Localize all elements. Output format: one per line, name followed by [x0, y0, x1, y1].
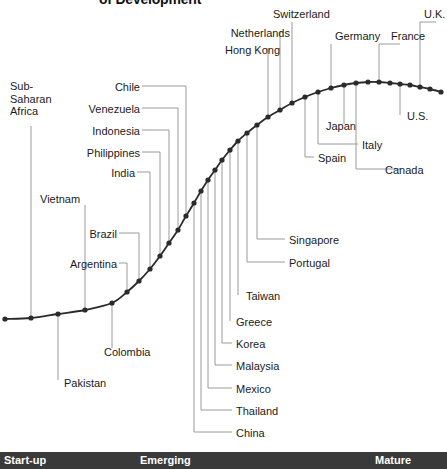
data-point — [277, 107, 282, 112]
data-point — [376, 79, 381, 84]
leader-canada — [356, 83, 400, 169]
label-brazil: Brazil — [0, 228, 117, 241]
data-point — [205, 177, 210, 182]
label-portugal: Portugal — [289, 257, 330, 270]
label-colombia: Colombia — [104, 346, 150, 359]
leader-chile — [142, 86, 186, 216]
leader-malaysia — [215, 170, 232, 365]
leader-indonesia — [142, 130, 169, 243]
chart-canvas: of Development Sub- Saharan Africa Vietn… — [0, 0, 447, 469]
leader-hong-kong — [266, 49, 268, 117]
leader-singapore — [257, 125, 285, 239]
label-netherlands: Netherlands — [150, 27, 290, 40]
data-point — [365, 79, 370, 84]
data-point — [183, 213, 188, 218]
data-point — [235, 138, 240, 143]
data-point — [124, 289, 129, 294]
leader-portugal — [247, 133, 285, 262]
data-point — [147, 266, 152, 271]
stage-label-emerging: Emerging — [140, 454, 191, 466]
label-chile: Chile — [0, 81, 140, 94]
label-korea: Korea — [236, 338, 265, 351]
label-philippines: Philippines — [0, 147, 140, 160]
label-germany: Germany — [335, 30, 380, 43]
data-point — [427, 86, 432, 91]
data-point — [265, 114, 270, 119]
leader-france — [379, 44, 400, 82]
data-point — [353, 80, 358, 85]
data-point — [2, 316, 7, 321]
data-point — [82, 307, 87, 312]
leader-italy — [318, 92, 358, 144]
label-italy: Italy — [362, 139, 382, 152]
data-point — [244, 130, 249, 135]
label-switzerland: Switzerland — [273, 8, 330, 21]
data-point — [328, 85, 333, 90]
leader-brazil — [119, 233, 139, 281]
data-point — [227, 147, 232, 152]
leader-philippines — [142, 152, 160, 256]
label-malaysia: Malaysia — [236, 360, 279, 373]
label-singapore: Singapore — [289, 234, 339, 247]
data-point — [407, 82, 412, 87]
label-indonesia: Indonesia — [0, 125, 140, 138]
label-pakistan: Pakistan — [64, 377, 106, 390]
label-vietnam: Vietnam — [40, 193, 80, 206]
data-point — [166, 240, 171, 245]
data-point — [198, 188, 203, 193]
label-venezuela: Venezuela — [0, 103, 140, 116]
data-point — [175, 227, 180, 232]
data-point — [341, 82, 346, 87]
data-point — [191, 200, 196, 205]
label-mexico: Mexico — [236, 383, 271, 396]
data-point — [157, 253, 162, 258]
data-point — [438, 89, 443, 94]
label-hong-kong: Hong Kong — [150, 44, 280, 57]
leader-netherlands — [280, 32, 283, 110]
leader-china — [194, 203, 232, 432]
label-china: China — [236, 427, 265, 440]
data-point — [302, 94, 307, 99]
data-point — [136, 278, 141, 283]
data-point — [219, 157, 224, 162]
data-point — [109, 300, 114, 305]
stage-label-startup: Start-up — [4, 454, 46, 466]
data-point — [397, 81, 402, 86]
label-france: France — [391, 30, 425, 43]
label-argentina: Argentina — [0, 258, 117, 271]
label-us: U.S. — [407, 110, 428, 123]
label-canada: Canada — [385, 164, 424, 177]
leader-thailand — [201, 191, 232, 410]
label-spain: Spain — [318, 152, 346, 165]
stage-label-mature: Mature — [375, 454, 411, 466]
leader-argentina — [119, 263, 127, 292]
stage-bar: Start-up Emerging Mature — [0, 452, 447, 469]
label-thailand: Thailand — [236, 405, 278, 418]
leader-spain — [305, 97, 314, 157]
data-point — [315, 89, 320, 94]
data-point — [28, 315, 33, 320]
data-point — [212, 167, 217, 172]
leader-mexico — [208, 180, 232, 388]
data-point — [55, 311, 60, 316]
data-point — [417, 84, 422, 89]
label-india: India — [0, 167, 135, 180]
data-point — [254, 122, 259, 127]
data-point — [289, 100, 294, 105]
data-point — [387, 80, 392, 85]
label-taiwan: Taiwan — [246, 290, 280, 303]
label-greece: Greece — [236, 316, 272, 329]
label-japan: Japan — [326, 120, 356, 133]
label-uk: U.K. — [424, 8, 445, 21]
